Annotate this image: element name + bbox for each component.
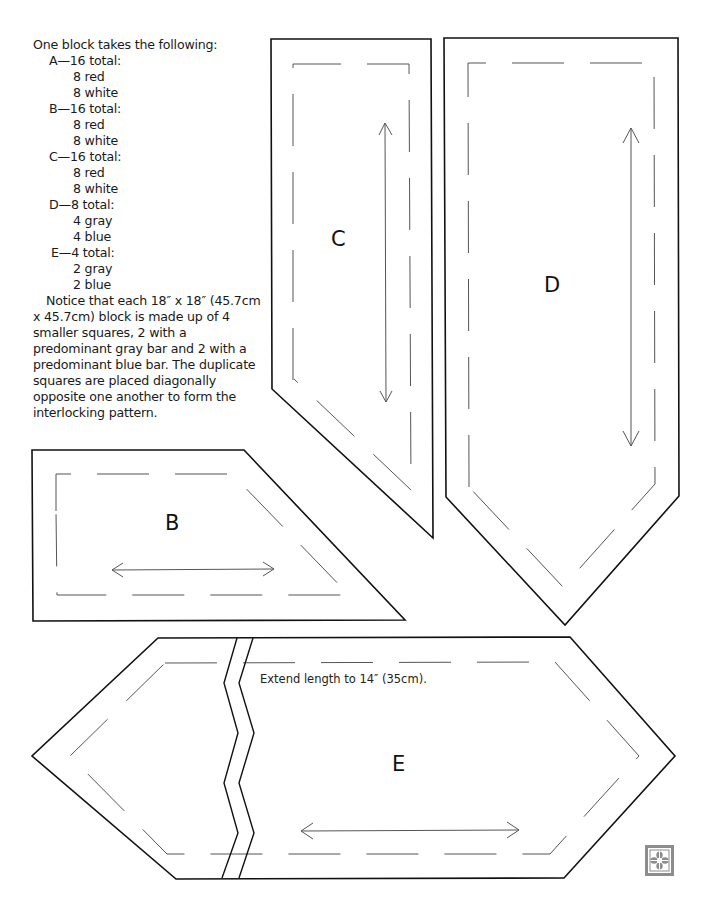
pattern-sheet [0, 0, 707, 907]
piece-c-seam-line [293, 64, 411, 490]
piece-d-seam-line [468, 63, 655, 587]
piece-d-label: D [544, 275, 560, 296]
pattern-piece-d [444, 38, 679, 625]
piece-e-label: E [392, 754, 405, 775]
piece-d-grainline-arrow [623, 128, 639, 446]
piece-e-grainline-arrow [301, 822, 519, 839]
piece-c-cut-line [271, 39, 433, 538]
pattern-piece-b [32, 450, 405, 621]
piece-e-seam-line [70, 662, 639, 854]
piece-e-break-line-2 [239, 638, 254, 878]
piece-b-seam-line [56, 474, 349, 595]
piece-e-extend-note: Extend length to 14″ (35cm). [260, 672, 427, 686]
piece-c-label: C [331, 229, 346, 250]
piece-d-cut-line [444, 38, 679, 625]
piece-c-grainline-arrow [379, 123, 392, 402]
piece-b-grainline-arrow [112, 562, 274, 577]
pattern-piece-c [271, 39, 433, 538]
piece-b-label: B [165, 513, 179, 534]
quatrefoil-block-icon [645, 845, 674, 876]
piece-e-break-line-1 [222, 638, 238, 878]
